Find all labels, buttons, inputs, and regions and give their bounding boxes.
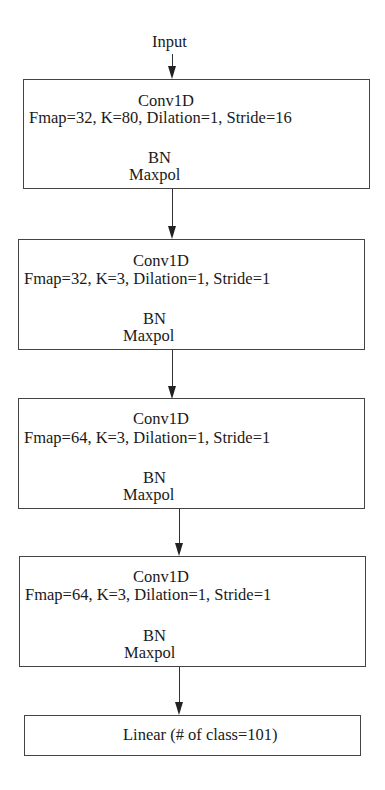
conv-block-3: Conv1D Fmap=64, K=3, Dilation=1, Stride=… [18,398,365,509]
block-2-params: Fmap=32, K=3, Dilation=1, Stride=1 [24,270,270,288]
block-1-pool: Maxpol [129,166,180,184]
block-2-title: Conv1D [133,252,189,270]
input-label: Input [152,33,187,51]
arrowhead-icon [168,226,176,239]
linear-label: Linear (# of class=101) [123,726,278,744]
block-3-params: Fmap=64, K=3, Dilation=1, Stride=1 [24,429,270,447]
block-4-params: Fmap=64, K=3, Dilation=1, Stride=1 [25,586,271,604]
block-4-pool: Maxpol [124,644,175,662]
linear-block: Linear (# of class=101) [24,715,361,756]
conv-block-1: Conv1D Fmap=32, K=80, Dilation=1, Stride… [23,79,370,189]
arrowhead-icon [175,702,183,715]
block-3-title: Conv1D [133,410,189,428]
conv-block-4: Conv1D Fmap=64, K=3, Dilation=1, Stride=… [19,556,366,667]
block-2-pool: Maxpol [123,327,174,345]
block-3-pool: Maxpol [123,486,174,504]
arrowhead-icon [168,66,176,79]
conv-block-2: Conv1D Fmap=32, K=3, Dilation=1, Stride=… [18,239,365,350]
block-4-title: Conv1D [133,568,189,586]
block-1-params: Fmap=32, K=80, Dilation=1, Stride=16 [29,109,292,127]
arrowhead-icon [175,543,183,556]
